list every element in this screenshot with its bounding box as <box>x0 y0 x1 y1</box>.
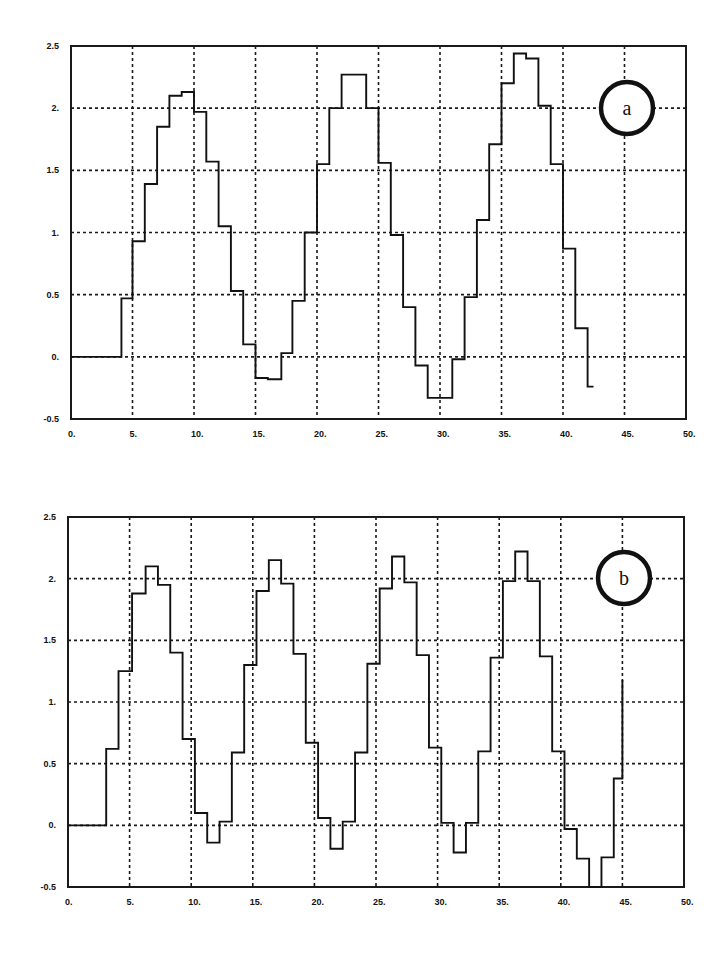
x-tick-label: 20. <box>311 897 324 907</box>
y-tick-label: 1.5 <box>46 165 59 175</box>
x-tick-label: 30. <box>437 429 450 439</box>
step-signal-trace <box>68 552 623 887</box>
y-tick-label: 0.5 <box>43 759 56 769</box>
panel-label: a <box>623 97 632 119</box>
x-tick-label: 25. <box>373 897 386 907</box>
panel-label-badge: b <box>598 552 650 604</box>
x-tick-label: 45. <box>622 429 635 439</box>
y-tick-label: 2.5 <box>46 41 59 51</box>
x-tick-label: 35. <box>496 897 509 907</box>
y-tick-label: 2.5 <box>43 512 56 522</box>
y-tick-label: 0.5 <box>46 290 59 300</box>
x-tick-label: 0. <box>68 429 76 439</box>
y-tick-label: 1. <box>51 228 59 238</box>
x-tick-label: 40. <box>560 429 573 439</box>
y-tick-label: 0. <box>51 352 59 362</box>
figure: 0.5.10.15.20.25.30.35.40.45.50.-0.50.0.5… <box>0 0 727 965</box>
y-tick-label: 1.5 <box>43 635 56 645</box>
x-tick-label: 30. <box>435 897 448 907</box>
y-tick-label: -0.5 <box>43 414 59 424</box>
x-tick-label: 15. <box>250 897 263 907</box>
x-tick-label: 10. <box>191 429 204 439</box>
chart-panel-b: 0.5.10.15.20.25.30.35.40.45.50.-0.50.0.5… <box>40 512 693 907</box>
x-tick-label: 35. <box>499 429 512 439</box>
tick-labels: 0.5.10.15.20.25.30.35.40.45.50.-0.50.0.5… <box>43 41 695 439</box>
panel-label: b <box>619 567 629 589</box>
y-tick-label: 0. <box>48 820 56 830</box>
y-tick-label: 2. <box>51 103 59 113</box>
panel-label-badge: a <box>601 82 653 134</box>
x-tick-label: 40. <box>558 897 571 907</box>
y-tick-label: 2. <box>48 574 56 584</box>
x-tick-label: 5. <box>130 429 138 439</box>
y-tick-label: -0.5 <box>40 882 56 892</box>
grid <box>71 46 686 419</box>
y-tick-label: 1. <box>48 697 56 707</box>
x-tick-label: 20. <box>314 429 327 439</box>
x-tick-label: 50. <box>681 897 694 907</box>
x-tick-label: 5. <box>127 897 135 907</box>
x-tick-label: 50. <box>683 429 696 439</box>
step-signal-trace <box>71 53 594 397</box>
x-tick-label: 15. <box>253 429 266 439</box>
x-tick-label: 45. <box>619 897 632 907</box>
chart-panel-a: 0.5.10.15.20.25.30.35.40.45.50.-0.50.0.5… <box>43 41 695 439</box>
x-tick-label: 0. <box>65 897 73 907</box>
x-tick-label: 25. <box>376 429 389 439</box>
grid <box>68 517 684 887</box>
x-tick-label: 10. <box>188 897 201 907</box>
